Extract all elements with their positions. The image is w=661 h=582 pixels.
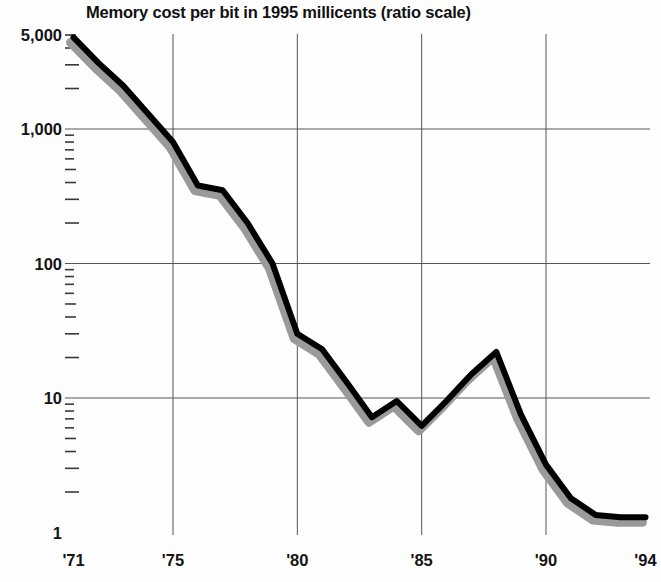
- chart-plot-area: [0, 0, 661, 582]
- series-line-shadow: [71, 42, 643, 522]
- x-axis-tick-label: '71: [62, 551, 84, 570]
- y-axis-tick-label: 1,000: [0, 120, 62, 139]
- gridlines-group: [65, 34, 650, 535]
- x-axis-tick-label: '85: [411, 551, 433, 570]
- x-axis-tick-label: '94: [634, 551, 656, 570]
- y-axis-tick-label: 1: [0, 523, 62, 542]
- data-series-group: [71, 37, 646, 522]
- x-axis-tick-label: '80: [286, 551, 308, 570]
- y-axis-tick-label: 100: [0, 254, 62, 273]
- y-axis-tick-label: 5,000: [0, 25, 62, 44]
- x-axis-tick-label: '75: [162, 551, 184, 570]
- series-line-memory-cost-per-bit: [74, 37, 646, 517]
- x-axis-tick-label: '90: [535, 551, 557, 570]
- chart-figure: Memory cost per bit in 1995 millicents (…: [0, 0, 661, 582]
- y-axis-tick-label: 10: [0, 389, 62, 408]
